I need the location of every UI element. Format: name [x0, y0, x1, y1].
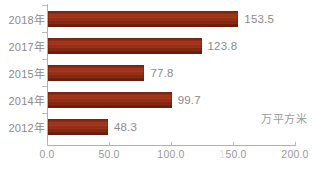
x-axis-tick: [171, 142, 172, 146]
bar[interactable]: [48, 38, 202, 54]
bar-row: 2014年99.7: [0, 92, 313, 108]
x-axis-tick: [47, 142, 48, 146]
bar-row: 2017年123.8: [0, 38, 313, 54]
category-label: 2015年: [9, 65, 45, 81]
x-axis-tick-label: 50.0: [98, 148, 119, 160]
bar-value-label: 123.8: [208, 40, 238, 52]
x-axis-tick: [233, 142, 234, 146]
bar-value-label: 153.5: [244, 13, 274, 25]
bar[interactable]: [48, 11, 238, 27]
bar[interactable]: [48, 65, 144, 81]
bar-row: 2015年77.8: [0, 65, 313, 81]
category-label: 2014年: [9, 92, 45, 108]
y-axis-tick: [42, 32, 47, 33]
bar-value-label: 99.7: [178, 94, 201, 106]
y-axis-tick: [42, 113, 47, 114]
unit-label: 万平方米: [261, 110, 307, 126]
x-axis-tick-label: 100.0: [157, 148, 184, 160]
category-label: 2012年: [9, 119, 45, 135]
x-axis-tick-label: 200.0: [281, 148, 308, 160]
bar[interactable]: [48, 119, 108, 135]
bar-value-label: 48.3: [114, 121, 137, 133]
category-label: 2017年: [9, 38, 45, 54]
bar[interactable]: [48, 92, 172, 108]
bar-value-label: 77.8: [150, 67, 173, 79]
bar-row: 2018年153.5: [0, 11, 313, 27]
category-label: 2018年: [9, 11, 45, 27]
y-axis-tick: [42, 5, 47, 6]
y-axis-tick: [42, 59, 47, 60]
bar-chart: 0.050.0100.0150.0200.0 2018年153.52017年12…: [0, 0, 313, 170]
x-axis-tick-label: 0.0: [39, 148, 54, 160]
x-axis-tick: [295, 142, 296, 146]
x-axis-tick-label: 150.0: [219, 148, 246, 160]
y-axis-tick: [42, 86, 47, 87]
x-axis-tick: [109, 142, 110, 146]
